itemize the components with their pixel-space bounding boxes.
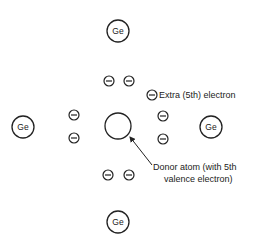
- ge-atom-right: Ge: [200, 116, 222, 138]
- electron-icon: [124, 76, 134, 86]
- donor-atom-diagram: Ge Ge Ge Ge Extra (5th) electron Donor a…: [0, 0, 258, 248]
- extra-electron-icon: [147, 90, 157, 100]
- ge-atom-label: Ge: [112, 217, 124, 227]
- electron-icon: [103, 170, 113, 180]
- ge-atom-left: Ge: [12, 116, 34, 138]
- extra-electron-label: Extra (5th) electron: [159, 90, 236, 100]
- ge-atom-label: Ge: [205, 122, 217, 132]
- donor-atom: [105, 113, 131, 139]
- ge-atom-label: Ge: [112, 26, 124, 36]
- electron-icon: [124, 170, 134, 180]
- electron-icon: [69, 133, 79, 143]
- electron-icon: [158, 111, 168, 121]
- electron-icon: [104, 76, 114, 86]
- donor-label-line1: Donor atom (with 5th: [153, 162, 237, 172]
- donor-arrow: [130, 137, 152, 165]
- ge-atom-label: Ge: [17, 122, 29, 132]
- donor-label-line2: valence electron): [164, 174, 233, 184]
- electron-icon: [158, 134, 168, 144]
- electron-icon: [69, 110, 79, 120]
- ge-atom-bottom: Ge: [107, 211, 129, 233]
- ge-atom-top: Ge: [107, 20, 129, 42]
